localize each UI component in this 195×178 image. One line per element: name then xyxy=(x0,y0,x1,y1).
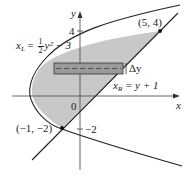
point-5-4 xyxy=(158,29,162,33)
diagram-canvas xyxy=(0,0,195,178)
x-axis-label: x xyxy=(176,100,181,111)
x-axis-arrow-icon xyxy=(173,94,180,99)
left-curve-label: xL = 12y² − 3 xyxy=(16,38,71,55)
y-axis-arrow-icon xyxy=(78,11,83,18)
point-neg1-neg2 xyxy=(60,126,64,130)
point-label-5-4: (5, 4) xyxy=(138,17,162,28)
left-curve-rest: y² − 3 xyxy=(45,39,72,51)
right-curve-label: xR = y + 1 xyxy=(113,80,158,93)
area-between-curves-diagram: y x 0 4 −2 (5, 4) (−1, −2) xL = 12y² − 3… xyxy=(0,0,195,178)
left-curve-eq: = xyxy=(28,39,34,51)
left-curve-sub: L xyxy=(21,45,25,53)
y-axis-label: y xyxy=(71,8,76,19)
point-label-neg1-neg2: (−1, −2) xyxy=(16,123,52,134)
y-tick-label-neg2: −2 xyxy=(85,124,97,135)
right-curve-rest: = y + 1 xyxy=(125,79,158,91)
right-curve-sub: R xyxy=(118,85,122,93)
left-curve-fraction: 12 xyxy=(38,38,44,55)
delta-y-label: Δy xyxy=(129,63,142,74)
fraction-denominator: 2 xyxy=(38,47,44,55)
origin-label: 0 xyxy=(71,101,77,112)
y-tick-label-4: 4 xyxy=(69,26,75,37)
